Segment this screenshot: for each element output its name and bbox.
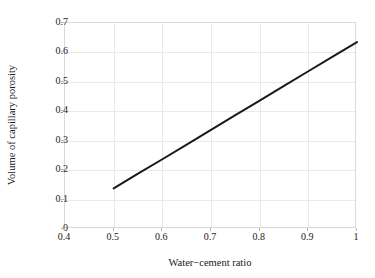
x-axis-tick-mark (113, 228, 114, 231)
y-axis-tick-mark (61, 81, 64, 82)
x-axis-tick-mark (259, 228, 260, 231)
x-axis-tick-mark (210, 228, 211, 231)
x-axis-title: Water−cement ratio (64, 256, 356, 269)
chart-figure: 0.40.50.60.70.80.91 00.10.20.30.40.50.60… (0, 0, 375, 278)
y-axis-tick-mark (61, 169, 64, 170)
data-line-layer (65, 23, 357, 229)
y-axis-tick-mark (61, 51, 64, 52)
x-axis-tick-label: 0.9 (301, 231, 314, 243)
y-axis-tick-mark (61, 22, 64, 23)
y-axis-tick-mark (61, 199, 64, 200)
x-axis-tick-label: 0.7 (204, 231, 217, 243)
x-axis-tick-label: 0.6 (155, 231, 168, 243)
x-axis-tick-label: 0.5 (106, 231, 119, 243)
plot-area (64, 22, 356, 228)
y-axis-tick-mark (61, 110, 64, 111)
y-axis-title: Volume of capillary porosity (5, 65, 18, 185)
x-axis-tick-label: 1 (354, 231, 359, 243)
x-axis-tick-mark (161, 228, 162, 231)
x-axis-tick-mark (64, 228, 65, 231)
y-axis-tick-mark (61, 228, 64, 229)
y-axis-title-wrapper: Volume of capillary porosity (0, 0, 22, 250)
series-line-capillary-porosity (114, 42, 357, 188)
y-axis-tick-mark (61, 140, 64, 141)
x-axis-tick-mark (356, 228, 357, 231)
x-axis-tick-mark (307, 228, 308, 231)
x-axis-tick-label: 0.8 (252, 231, 265, 243)
